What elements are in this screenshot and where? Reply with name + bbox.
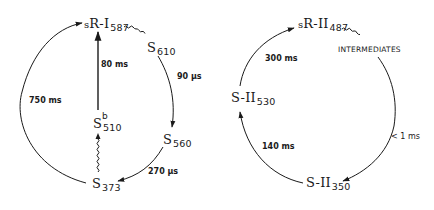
state-subscript: 530: [257, 96, 276, 107]
state-s2-350: S-II350: [306, 176, 351, 192]
rate-90us: 90 µs: [177, 73, 202, 81]
state-s610: S610: [147, 41, 176, 57]
state-s560: S560: [163, 133, 192, 149]
state-s2-530: S-II530: [231, 91, 276, 107]
state-base: R-II: [303, 16, 328, 31]
state-base: S: [93, 116, 102, 131]
label-intermediates: INTERMEDIATES: [338, 46, 401, 54]
state-subscript: 610: [157, 46, 176, 57]
rate-lt1ms: < 1 ms: [391, 133, 420, 141]
state-subscript: 587: [110, 22, 129, 33]
state-s510b: Sb510: [93, 117, 122, 133]
state-sr1-587: sR-I587: [84, 17, 129, 33]
photocycle-diagram: [0, 0, 434, 210]
state-subscript: 373: [102, 182, 121, 193]
rate-140ms: 140 ms: [262, 143, 295, 151]
state-subscript: 560: [173, 138, 192, 149]
state-base: R-I: [89, 16, 109, 31]
rate-750ms: 750 ms: [29, 97, 62, 105]
rate-270us: 270 µs: [148, 168, 178, 176]
state-s373: S373: [92, 177, 121, 193]
arrowhead-wavy-s510: [96, 133, 101, 139]
state-base: S: [147, 40, 156, 55]
state-base: S: [92, 176, 101, 191]
state-subscript: 487: [330, 22, 349, 33]
wavy-photon-s373-s510: [97, 139, 99, 172]
state-sr2-487: sR-II487: [298, 17, 348, 33]
state-subscript: 350: [332, 181, 351, 192]
state-subscript: 510: [103, 122, 122, 133]
state-base: S-II: [231, 90, 256, 105]
state-base: S: [163, 132, 172, 147]
rate-300ms: 300 ms: [265, 55, 298, 63]
state-base: S-II: [306, 175, 331, 190]
state-superscript: b: [102, 112, 108, 121]
rate-80ms: 80 ms: [101, 61, 128, 69]
arrow-90us: [158, 56, 173, 127]
arrow-lt1ms: [343, 57, 395, 181]
